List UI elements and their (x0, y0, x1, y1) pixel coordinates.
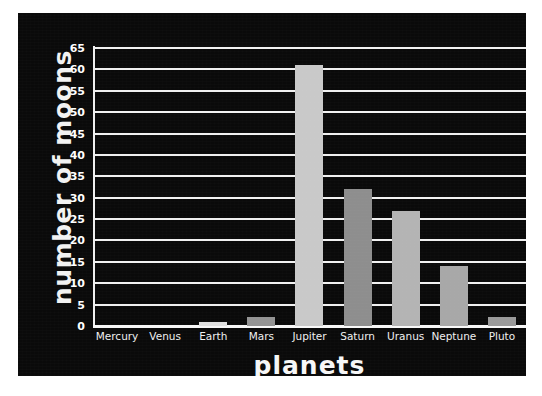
x-axis-tick-label: Uranus (387, 331, 424, 342)
bar-slot (93, 48, 141, 326)
bar-slot (382, 48, 430, 326)
bar (344, 189, 372, 326)
x-axis-tick-label: Mars (249, 331, 274, 342)
x-axis-tick-label: Mercury (96, 331, 139, 342)
y-axis-tick-label: 15 (70, 256, 85, 267)
bar-slot (237, 48, 285, 326)
bar (199, 322, 227, 326)
x-axis-title: planets (93, 351, 526, 376)
x-axis-tick-label: Pluto (489, 331, 515, 342)
y-axis-tick-label: 45 (70, 128, 85, 139)
x-axis-tick-label: Venus (149, 331, 181, 342)
bar-slot (478, 48, 526, 326)
bar (247, 317, 275, 326)
x-axis-tick-label: Earth (199, 331, 227, 342)
bar-slot (141, 48, 189, 326)
bar (488, 317, 516, 326)
y-axis-tick-label: 10 (70, 278, 85, 289)
y-axis-tick-label: 35 (70, 171, 85, 182)
y-axis-tick-label: 5 (77, 299, 85, 310)
x-axis-tick-labels: MercuryVenusEarthMarsJupiterSaturnUranus… (93, 331, 526, 347)
y-axis-tick-label: 40 (70, 149, 85, 160)
y-axis-tick-label: 60 (70, 64, 85, 75)
y-axis-tick-label: 0 (77, 321, 85, 332)
bar (392, 211, 420, 326)
bar-slot (285, 48, 333, 326)
bar-slot (189, 48, 237, 326)
y-axis-tick-label: 30 (70, 192, 85, 203)
x-axis-tick-label: Jupiter (292, 331, 326, 342)
x-axis-tick-label: Saturn (340, 331, 375, 342)
bar (440, 266, 468, 326)
x-axis-tick-label: Neptune (431, 331, 476, 342)
bar-slot (334, 48, 382, 326)
chart-panel: number of moons 051015202530354045505560… (18, 13, 526, 376)
y-axis-tick-label: 25 (70, 214, 85, 225)
y-axis-tick-label: 50 (70, 107, 85, 118)
bar (295, 65, 323, 326)
y-axis-tick-label: 65 (70, 43, 85, 54)
y-axis-tick-label: 20 (70, 235, 85, 246)
bar-series (93, 48, 526, 326)
chart-page: number of moons 051015202530354045505560… (0, 0, 542, 396)
bar-slot (430, 48, 478, 326)
y-axis-tick-label: 55 (70, 85, 85, 96)
